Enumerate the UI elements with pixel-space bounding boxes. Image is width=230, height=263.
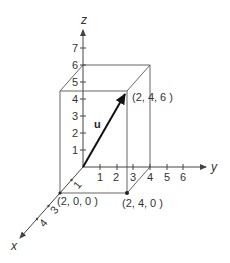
- z-tick-labels: 1 2 3 4 5 6 7: [72, 42, 78, 156]
- point-2-4-0: [125, 191, 129, 195]
- svg-text:3: 3: [72, 110, 78, 122]
- z-axis-label: z: [80, 13, 87, 27]
- point-label-2-4-0: (2, 4, 0 ): [122, 197, 163, 209]
- svg-text:6: 6: [180, 171, 186, 183]
- svg-text:4: 4: [147, 171, 153, 183]
- svg-text:4: 4: [72, 93, 78, 105]
- vector-diagram: 1 2 3 4 5 6 7 1 2 3 4 5 6 1 3 4 z y x u: [0, 0, 230, 263]
- svg-text:1: 1: [97, 171, 103, 183]
- vector-u: [83, 94, 125, 167]
- svg-text:5: 5: [164, 171, 170, 183]
- svg-text:4: 4: [36, 217, 49, 229]
- vector-u-label: u: [94, 118, 101, 130]
- x-axis-label: x: [10, 239, 18, 253]
- svg-text:2: 2: [113, 171, 119, 183]
- svg-text:1: 1: [72, 144, 78, 156]
- svg-text:7: 7: [72, 42, 78, 54]
- point-label-2-4-6: (2, 4, 6 ): [132, 91, 173, 103]
- point-label-2-0-0: (2, 0, 0 ): [57, 195, 98, 207]
- svg-text:6: 6: [72, 59, 78, 71]
- svg-text:5: 5: [72, 76, 78, 88]
- svg-text:2: 2: [72, 127, 78, 139]
- svg-text:3: 3: [130, 171, 136, 183]
- svg-text:1: 1: [70, 179, 83, 191]
- y-axis-label: y: [210, 160, 218, 174]
